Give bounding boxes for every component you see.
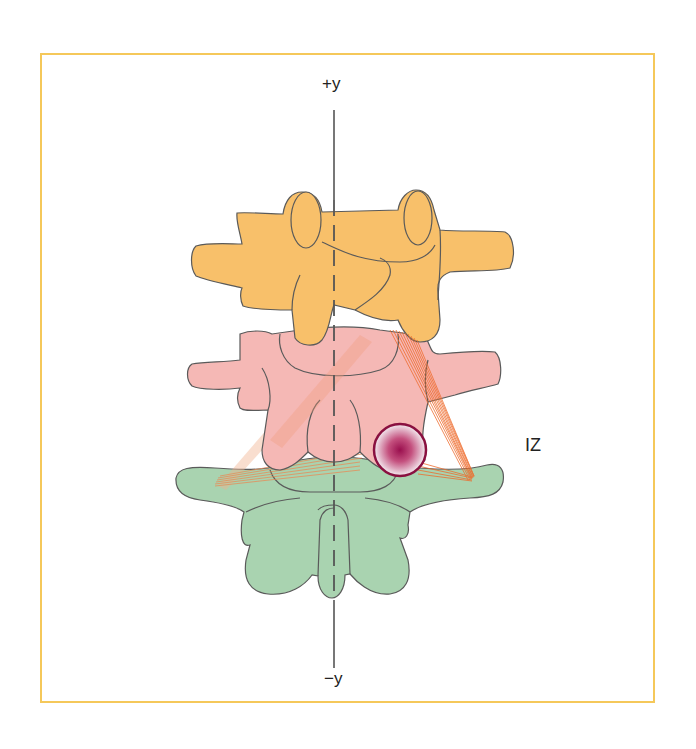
upper-right-facet xyxy=(404,191,432,245)
lesion-circle xyxy=(374,424,426,476)
upper-left-facet xyxy=(291,192,321,248)
upper-vertebra xyxy=(192,190,514,345)
zone-label-iz: IZ xyxy=(525,436,541,454)
spine-diagram xyxy=(0,0,696,749)
axis-label-positive-y: +y xyxy=(322,75,340,92)
axis-label-negative-y: −y xyxy=(324,670,342,687)
